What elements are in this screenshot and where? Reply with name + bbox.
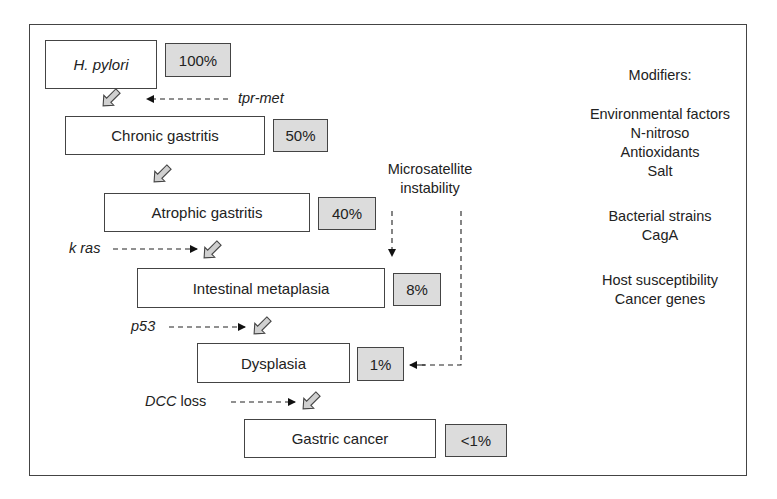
label-k-ras: k ras bbox=[69, 240, 100, 256]
msi-line-2: instability bbox=[375, 179, 485, 198]
label-dcc-loss: DCC loss bbox=[145, 393, 206, 409]
label-p53: p53 bbox=[131, 318, 155, 334]
modifier-heading: Bacterial strains bbox=[565, 207, 755, 226]
stage-label: Chronic gastritis bbox=[111, 127, 219, 144]
stage-label: Atrophic gastritis bbox=[152, 204, 263, 221]
modifier-item: Cancer genes bbox=[565, 290, 755, 309]
modifier-group-bacterial: Bacterial strains CagA bbox=[565, 207, 755, 245]
label-tpr-met: tpr-met bbox=[238, 90, 284, 106]
microsatellite-instability-label: Microsatellite instability bbox=[375, 160, 485, 198]
stage-gastric-cancer: Gastric cancer bbox=[244, 419, 436, 458]
stage-label: Intestinal metaplasia bbox=[193, 280, 330, 297]
modifier-item: Salt bbox=[565, 162, 755, 181]
stage-chronic-gastritis: Chronic gastritis bbox=[65, 116, 265, 155]
modifiers-title: Modifiers: bbox=[565, 66, 755, 85]
modifier-heading: Environmental factors bbox=[565, 105, 755, 124]
msi-line-1: Microsatellite bbox=[375, 160, 485, 179]
dcc-suffix: loss bbox=[176, 393, 206, 409]
percent-h-pylori: 100% bbox=[165, 43, 231, 77]
stage-label: Gastric cancer bbox=[292, 430, 389, 447]
stage-label: H. pylori bbox=[73, 56, 128, 73]
modifier-item: CagA bbox=[565, 226, 755, 245]
modifier-group-environmental: Environmental factors N-nitroso Antioxid… bbox=[565, 105, 755, 181]
modifiers-panel: Modifiers: Environmental factors N-nitro… bbox=[565, 66, 755, 309]
percent-chronic-gastritis: 50% bbox=[273, 119, 328, 152]
percent-value: 8% bbox=[406, 281, 428, 298]
percent-value: <1% bbox=[461, 432, 491, 449]
stage-label: Dysplasia bbox=[241, 355, 306, 372]
stage-atrophic-gastritis: Atrophic gastritis bbox=[104, 193, 310, 232]
percent-value: 50% bbox=[285, 127, 315, 144]
percent-dysplasia: 1% bbox=[357, 347, 404, 381]
modifier-item: N-nitroso bbox=[565, 124, 755, 143]
dcc-gene: DCC bbox=[145, 393, 176, 409]
modifier-heading: Host susceptibility bbox=[565, 271, 755, 290]
percent-value: 1% bbox=[370, 356, 392, 373]
percent-intestinal-metaplasia: 8% bbox=[393, 273, 441, 306]
stage-h-pylori: H. pylori bbox=[45, 40, 157, 89]
percent-gastric-cancer: <1% bbox=[445, 424, 507, 457]
modifier-item: Antioxidants bbox=[565, 143, 755, 162]
modifier-group-host: Host susceptibility Cancer genes bbox=[565, 271, 755, 309]
percent-value: 40% bbox=[332, 205, 362, 222]
stage-intestinal-metaplasia: Intestinal metaplasia bbox=[137, 268, 385, 308]
percent-atrophic-gastritis: 40% bbox=[318, 197, 376, 230]
percent-value: 100% bbox=[179, 52, 217, 69]
stage-dysplasia: Dysplasia bbox=[197, 343, 350, 383]
